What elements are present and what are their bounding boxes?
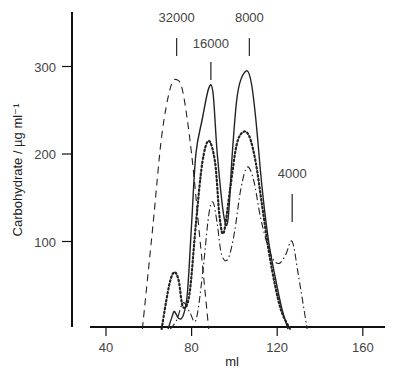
marker-label: 32000 [159, 10, 195, 25]
x-tick-label: 120 [266, 340, 288, 355]
series-dashed [142, 79, 208, 329]
marker-label: 8000 [235, 10, 264, 25]
x-axis-title: ml [225, 354, 239, 369]
x-tick-label: 40 [99, 340, 113, 355]
marker-label: 16000 [193, 36, 229, 51]
y-tick-label: 300 [34, 60, 56, 75]
marker-label: 4000 [278, 166, 307, 181]
x-tick-label: 160 [352, 340, 374, 355]
molecular-weight-markers: 320001600080004000 [159, 10, 307, 222]
y-ticks: 100200300 [34, 60, 72, 250]
x-ticks: 4080120160 [99, 327, 374, 355]
y-axis-title: Carbohydrate / µg ml⁻¹ [10, 103, 25, 237]
series-dotted [162, 131, 290, 329]
x-tick-label: 80 [184, 340, 198, 355]
chart-plot: 100200300 4080120160 320001600080004000 … [0, 0, 396, 379]
y-tick-label: 200 [34, 147, 56, 162]
y-tick-label: 100 [34, 235, 56, 250]
data-series [142, 71, 307, 329]
